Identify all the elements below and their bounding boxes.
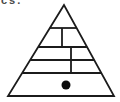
- pyramid-diagram: [0, 0, 120, 102]
- pyramid-outline: [8, 5, 114, 96]
- bottom-level-dot: [62, 81, 71, 90]
- diagram-canvas: cs.: [0, 0, 120, 102]
